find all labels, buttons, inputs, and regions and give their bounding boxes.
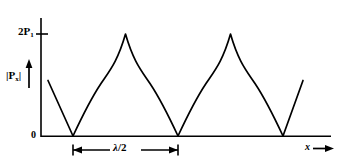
y-origin-label-zero: 0 <box>31 130 36 140</box>
y-axis-label-px: |Px| <box>6 70 21 81</box>
span-label-half-wavelength: λ/2 <box>113 142 126 153</box>
dimension-arrow-left-icon <box>73 147 82 154</box>
plot-canvas <box>0 0 341 164</box>
dimension-arrow-right-icon <box>169 147 178 154</box>
y-tick-label-2p1: 2P1 <box>18 26 34 37</box>
figure-container: 2P1 0 |Px| λ/2 x <box>0 0 341 164</box>
y-axis-up-arrow-icon <box>26 59 33 88</box>
curve-abs-sine <box>48 34 303 136</box>
x-axis-right-arrow-icon <box>313 145 334 152</box>
x-axis-label: x <box>305 142 310 152</box>
